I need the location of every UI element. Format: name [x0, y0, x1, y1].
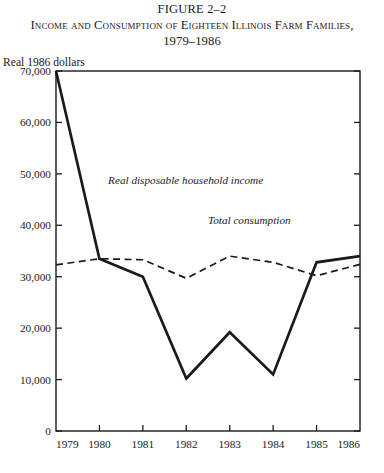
line-chart: 010,00020,00030,00040,00050,00060,00070,… — [0, 0, 384, 473]
x-axis-tick-label: 1981 — [132, 438, 155, 450]
y-axis-tick-label: 30,000 — [20, 271, 51, 283]
x-axis-tick-label: 1980 — [88, 438, 111, 450]
series-annotation-label: Real disposable household income — [107, 174, 263, 186]
x-axis-ticks: 19791980198119821983198419851986 — [56, 425, 360, 450]
x-axis-tick-label: 1983 — [218, 438, 241, 450]
x-axis-tick-label: 1982 — [175, 438, 198, 450]
y-axis-ticks: 010,00020,00030,00040,00050,00060,00070,… — [20, 65, 360, 437]
y-axis-tick-label: 60,000 — [20, 116, 51, 128]
plot-frame — [56, 71, 360, 431]
x-axis-tick-label: 1985 — [305, 438, 328, 450]
x-axis-tick-label: 1986 — [337, 438, 360, 450]
y-axis-tick-label: 70,000 — [20, 65, 51, 77]
y-axis-tick-label: 10,000 — [20, 374, 51, 386]
x-axis-tick-label: 1984 — [262, 438, 285, 450]
y-axis-tick-label: 0 — [45, 425, 51, 437]
series-annotation-label: Total consumption — [208, 214, 291, 226]
chart-plot-area: 010,00020,00030,00040,00050,00060,00070,… — [0, 0, 384, 473]
x-axis-tick-label: 1979 — [56, 438, 79, 450]
series-annotations: Real disposable household incomeTotal co… — [107, 174, 291, 226]
y-axis-tick-label: 50,000 — [20, 168, 51, 180]
y-axis-tick-label: 20,000 — [20, 322, 51, 334]
y-axis-tick-label: 40,000 — [20, 219, 51, 231]
